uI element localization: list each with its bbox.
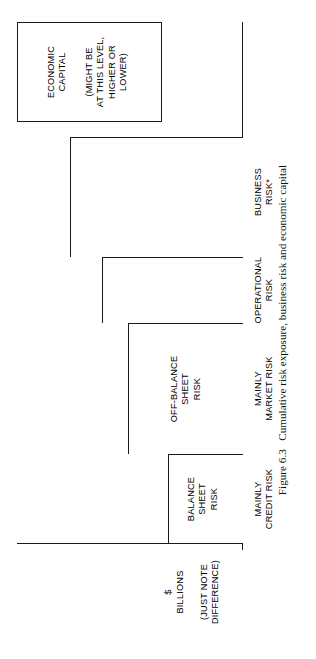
step-business-risk xyxy=(70,137,243,257)
category-label-mainly-market-risk: MAINLY MARKET RISK xyxy=(253,323,276,454)
y-axis-subtitle: (JUST NOTE DIFFERENCE) xyxy=(199,546,221,638)
category-label-operational-risk: OPERATIONAL RISK xyxy=(253,248,276,332)
figure-caption: Figure 6.3 Cumulative risk exposure, bus… xyxy=(276,50,288,610)
block-note-economic-capital: (MIGHT BE AT THIS LEVEL, HIGHER OR LOWER… xyxy=(84,23,130,121)
figure-caption-text: Cumulative risk exposure, business risk … xyxy=(276,164,288,440)
block-label-economic-capital: ECONOMIC CAPITAL xyxy=(46,23,69,121)
step-off-balance-sheet-risk: OFF-BALANCE SHEET RISK xyxy=(128,323,243,454)
block-economic-capital: ECONOMIC CAPITAL (MIGHT BE AT THIS LEVEL… xyxy=(17,22,162,122)
step-label-balance-sheet-risk: BALANCE SHEET RISK xyxy=(186,455,220,543)
y-axis-title: $ BILLIONS xyxy=(163,550,186,634)
category-label-mainly-credit-risk: MAINLY CREDIT RISK xyxy=(253,454,276,544)
figure-caption-number: Figure 6.3 xyxy=(276,449,288,495)
rotated-figure-container: BALANCE SHEET RISK OFF-BALANCE SHEET RIS… xyxy=(13,20,303,640)
chart-plot-area: BALANCE SHEET RISK OFF-BALANCE SHEET RIS… xyxy=(13,20,303,640)
step-operational-risk xyxy=(102,257,243,323)
step-label-off-balance-sheet-risk: OFF-BALANCE SHEET RISK xyxy=(169,324,203,454)
step-balance-sheet-risk: BALANCE SHEET RISK xyxy=(168,454,243,544)
figure-page: BALANCE SHEET RISK OFF-BALANCE SHEET RIS… xyxy=(0,0,316,659)
category-label-business-risk: BUSINESS RISK* xyxy=(253,144,276,240)
